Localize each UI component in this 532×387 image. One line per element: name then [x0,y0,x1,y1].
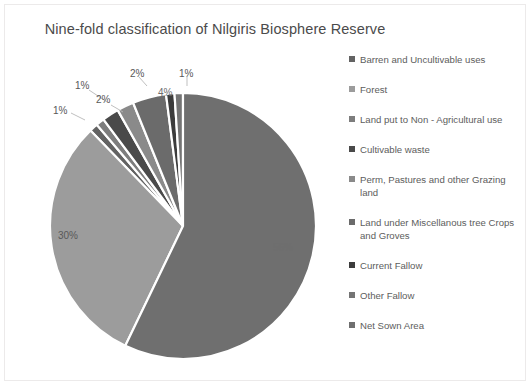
legend-item-label: Perm, Pastures and other Grazing land [360,173,518,199]
legend-item-barren-and-uncultivable-uses[interactable]: Barren and Uncultivable uses [349,53,529,66]
legend-swatch-icon [349,146,355,152]
legend-item-perm-pastures-and-other-grazing-land[interactable]: Perm, Pastures and other Grazing land [349,173,529,199]
slice-label-net-sown-area: 56% [273,242,293,253]
legend-item-label: Forest [360,83,387,96]
legend-item-label: Cultivable waste [360,143,430,156]
legend-item-forest[interactable]: Forest [349,83,529,96]
legend-item-net-sown-area[interactable]: Net Sown Area [349,319,529,332]
chart-frame: Nine-fold classification of Nilgiris Bio… [4,4,526,381]
legend-item-land-put-to-non-agricultural-use[interactable]: Land put to Non - Agricultural use [349,113,529,126]
pie-slices [50,93,316,359]
legend-swatch-icon [349,292,355,298]
legend-swatch-icon [349,262,355,268]
slice-label-land-under-misc-tree-crops: 4% [158,87,172,98]
slice-label-land-put-to-non-agricultural-use: 1% [75,80,89,91]
legend-swatch-icon [349,219,355,225]
legend-item-label: Current Fallow [360,259,422,272]
slice-label-cultivable-waste: 1% [53,105,67,116]
legend-item-label: Net Sown Area [360,319,424,332]
chart-legend: Barren and Uncultivable uses Forest Land… [349,53,529,375]
legend-swatch-icon [349,116,355,122]
legend-item-other-fallow[interactable]: Other Fallow [349,289,529,302]
legend-swatch-icon [349,322,355,328]
chart-title: Nine-fold classification of Nilgiris Bio… [5,21,425,37]
legend-item-label: Land put to Non - Agricultural use [360,113,502,126]
legend-item-label: Barren and Uncultivable uses [360,53,485,66]
legend-item-land-under-miscellanous-tree-crops-and-groves[interactable]: Land under Miscellanous tree Crops and G… [349,216,529,242]
legend-item-label: Other Fallow [360,289,414,302]
leader-line-1pct-left [71,113,85,120]
slice-label-current-fallow: 2% [130,68,144,79]
slice-label-perm-pastures: 2% [96,94,110,105]
pie-chart[interactable]: 1% 30% 1% 2% 2% 4% 1% 56% [27,50,339,380]
legend-item-current-fallow[interactable]: Current Fallow [349,259,529,272]
slice-label-forest: 30% [58,230,78,241]
legend-item-label: Land under Miscellanous tree Crops and G… [360,216,518,242]
pie-svg [27,50,339,380]
legend-swatch-icon [349,176,355,182]
legend-item-cultivable-waste[interactable]: Cultivable waste [349,143,529,156]
legend-swatch-icon [349,86,355,92]
slice-label-other-fallow: 1% [179,68,193,79]
legend-swatch-icon [349,56,355,62]
